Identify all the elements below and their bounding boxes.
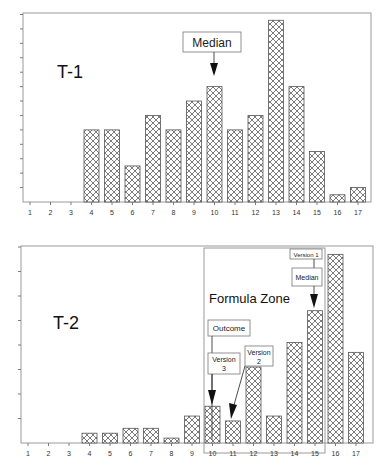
bar-9 (187, 101, 202, 202)
x-tick-label: 9 (190, 450, 194, 457)
t2-panel-label: T-2 (53, 313, 79, 333)
bar-11 (226, 421, 241, 443)
outcome-label: Outcome (213, 324, 246, 333)
median-label: Median (192, 36, 231, 50)
x-tick-label: 1 (26, 450, 30, 457)
version1-median-callout: Version 1 Median (290, 249, 322, 308)
x-tick-label: 9 (192, 209, 196, 216)
version1-label: Version 1 (293, 252, 319, 258)
bar-13 (267, 416, 282, 443)
x-tick-label: 12 (252, 209, 260, 216)
x-tick-label: 6 (131, 209, 135, 216)
arrow-down-icon (210, 63, 218, 76)
x-tick-label: 15 (311, 450, 319, 457)
bar-15 (308, 311, 323, 443)
x-tick-label: 3 (69, 209, 73, 216)
bar-10 (205, 406, 220, 443)
x-tick-label: 10 (209, 450, 217, 457)
bar-6 (123, 428, 138, 443)
x-tick-label: 17 (352, 450, 360, 457)
median-callout-t1: Median (183, 32, 241, 76)
x-tick-label: 7 (151, 209, 155, 216)
x-tick-label: 13 (272, 209, 280, 216)
bar-16 (330, 195, 345, 202)
chart-canvas: 1234567891011121314151617 T-1 Median 123… (0, 0, 380, 474)
x-tick-label: 3 (67, 450, 71, 457)
x-tick-label: 1 (28, 209, 32, 216)
x-tick-label: 6 (129, 450, 133, 457)
bar-12 (246, 367, 261, 443)
x-tick-label: 7 (149, 450, 153, 457)
t1-x-axis: 1234567891011121314151617 (28, 202, 362, 216)
x-tick-label: 8 (170, 450, 174, 457)
bar-17 (351, 188, 366, 202)
version3-label-line2: 3 (222, 365, 226, 372)
x-tick-label: 10 (211, 209, 219, 216)
arrow-down-icon (229, 403, 237, 419)
x-tick-label: 17 (354, 209, 362, 216)
x-tick-label: 8 (172, 209, 176, 216)
bar-7 (144, 428, 159, 443)
bar-5 (103, 433, 118, 443)
x-tick-label: 5 (110, 209, 114, 216)
bar-14 (287, 343, 302, 443)
x-tick-label: 4 (88, 450, 92, 457)
x-tick-label: 5 (108, 450, 112, 457)
bar-16 (328, 254, 343, 443)
bar-13 (269, 20, 284, 202)
x-tick-label: 16 (332, 450, 340, 457)
x-tick-label: 15 (313, 209, 321, 216)
t2-x-axis: 1234567891011121314151617 (26, 443, 360, 457)
x-tick-label: 14 (293, 209, 301, 216)
x-tick-label: 11 (231, 209, 238, 216)
chart-t2: 1234567891011121314151617 T-2 Formula Zo… (18, 246, 373, 457)
bar-14 (289, 87, 304, 202)
bar-11 (228, 130, 243, 202)
bar-12 (248, 115, 263, 202)
bar-4 (82, 433, 97, 443)
x-tick-label: 4 (90, 209, 94, 216)
bar-6 (125, 166, 140, 202)
bar-17 (349, 352, 364, 443)
x-tick-label: 2 (49, 209, 53, 216)
chart-t1: 1234567891011121314151617 T-1 Median (20, 13, 371, 216)
x-tick-label: 13 (270, 450, 278, 457)
version2-label-line1: Version (247, 349, 270, 356)
bar-5 (105, 130, 120, 202)
arrow-down-icon (208, 390, 216, 405)
x-tick-label: 16 (334, 209, 342, 216)
bar-15 (310, 152, 325, 202)
bar-8 (164, 438, 179, 443)
median-label-bottom: Median (296, 274, 319, 281)
t1-panel-label: T-1 (57, 62, 83, 82)
arrow-down-icon (310, 294, 318, 308)
x-tick-label: 12 (250, 450, 258, 457)
bar-4 (84, 130, 99, 202)
x-tick-label: 2 (47, 450, 51, 457)
version2-label-line2: 2 (257, 358, 261, 365)
x-tick-label: 11 (229, 450, 236, 457)
bar-7 (146, 115, 161, 202)
bar-9 (185, 416, 200, 443)
formula-zone-label: Formula Zone (209, 291, 290, 306)
bar-8 (166, 130, 181, 202)
bar-10 (207, 87, 222, 202)
version3-label-line1: Version (212, 356, 235, 363)
x-tick-label: 14 (291, 450, 299, 457)
